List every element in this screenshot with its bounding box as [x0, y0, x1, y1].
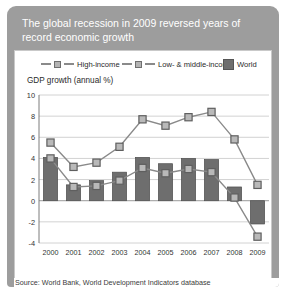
data-marker: [93, 182, 100, 189]
chart-card: The global recession in 2009 reversed ye…: [7, 6, 279, 287]
data-marker: [162, 122, 169, 129]
data-marker: [208, 169, 215, 176]
data-marker: [254, 181, 261, 188]
x-tick-label: 2003: [112, 248, 128, 257]
square-marker-icon: [54, 61, 61, 68]
y-tick-label: 0: [31, 197, 35, 206]
y-tick-label: 8: [31, 112, 35, 121]
legend-item-high-income[interactable]: High-income: [41, 57, 120, 71]
data-marker: [47, 139, 54, 146]
data-line: [51, 112, 258, 185]
bar-swatch-icon: [223, 59, 234, 70]
legend-label: World: [237, 60, 257, 69]
y-tick-label: 2: [31, 176, 35, 185]
data-marker: [116, 177, 123, 184]
data-marker: [185, 114, 192, 121]
bar: [204, 159, 218, 200]
x-tick-label: 2006: [181, 248, 197, 257]
data-marker: [231, 136, 238, 143]
square-marker-icon: [135, 61, 142, 68]
line-swatch-icon: [122, 63, 132, 65]
data-marker: [70, 163, 77, 170]
plot-area: 1086420-2-420002001200220032004200520062…: [15, 91, 273, 279]
legend-item-low-middle-income[interactable]: Low- & middle-income: [122, 57, 233, 71]
legend-label: Low- & middle-income: [158, 60, 233, 69]
chart-svg: 1086420-2-420002001200220032004200520062…: [15, 91, 273, 279]
data-line: [51, 158, 258, 236]
data-marker: [116, 143, 123, 150]
data-marker: [47, 155, 54, 162]
data-marker: [231, 194, 238, 201]
card-title: The global recession in 2009 reversed ye…: [22, 17, 262, 44]
x-tick-label: 2000: [43, 248, 59, 257]
line-swatch-icon: [145, 63, 155, 65]
y-axis-title: GDP growth (annual %): [27, 76, 113, 85]
x-tick-label: 2005: [158, 248, 174, 257]
bar: [181, 158, 195, 200]
y-tick-label: 6: [31, 133, 35, 142]
data-marker: [93, 159, 100, 166]
line-swatch-icon: [64, 63, 74, 65]
data-marker: [162, 170, 169, 177]
data-marker: [208, 108, 215, 115]
data-marker: [185, 165, 192, 172]
chart-legend: High-income Low- & middle-income World: [15, 57, 271, 71]
x-tick-label: 2009: [250, 248, 266, 257]
data-marker: [139, 116, 146, 123]
data-marker: [139, 164, 146, 171]
legend-label: High-income: [77, 60, 120, 69]
y-tick-label: 10: [27, 91, 35, 100]
x-tick-label: 2002: [89, 248, 105, 257]
y-tick-label: 4: [31, 154, 35, 163]
data-marker: [254, 233, 261, 240]
x-tick-label: 2004: [135, 248, 151, 257]
chart-panel: High-income Low- & middle-income World G…: [14, 50, 272, 280]
y-tick-label: -4: [28, 239, 35, 248]
data-marker: [70, 183, 77, 190]
y-tick-label: -2: [28, 218, 35, 227]
source-note: Source: World Bank, World Development In…: [15, 278, 211, 287]
x-tick-label: 2001: [66, 248, 82, 257]
bar: [250, 201, 264, 224]
x-tick-label: 2008: [227, 248, 243, 257]
line-swatch-icon: [41, 63, 51, 65]
legend-item-world[interactable]: World: [223, 57, 257, 71]
x-tick-label: 2007: [204, 248, 220, 257]
